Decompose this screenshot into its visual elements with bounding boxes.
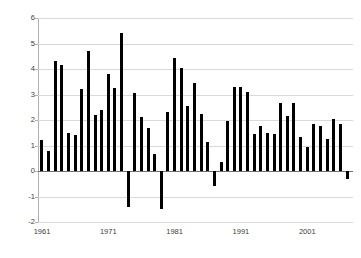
bar <box>259 126 262 171</box>
y-tick-label: 5 <box>13 40 35 48</box>
bar-chart: Percentage 6543210-1-2 19611971198119912… <box>0 0 361 258</box>
bar <box>67 133 70 171</box>
bar <box>47 151 50 171</box>
bar <box>213 171 216 186</box>
bar <box>332 119 335 171</box>
bar <box>133 93 136 171</box>
bar <box>186 106 189 171</box>
y-tick-label: 2 <box>13 116 35 124</box>
bar <box>166 112 169 171</box>
gridline <box>38 44 353 45</box>
bar <box>173 58 176 171</box>
x-tick-label: 1971 <box>88 227 128 236</box>
bar <box>147 128 150 171</box>
bar <box>206 142 209 171</box>
x-tick-label: 1991 <box>221 227 261 236</box>
zero-baseline <box>38 171 353 172</box>
bar <box>266 133 269 171</box>
bar <box>253 134 256 171</box>
bar <box>80 89 83 171</box>
bar <box>193 83 196 171</box>
bar <box>299 137 302 171</box>
bar <box>107 74 110 171</box>
gridline <box>38 222 353 223</box>
bar <box>87 51 90 171</box>
bar <box>312 124 315 171</box>
bar <box>279 103 282 171</box>
bar <box>286 116 289 171</box>
bar <box>60 65 63 171</box>
bar <box>233 87 236 171</box>
bar <box>339 124 342 171</box>
bar <box>153 154 156 171</box>
bar <box>239 87 242 171</box>
bar <box>40 140 43 171</box>
bar <box>226 121 229 171</box>
bar <box>200 114 203 171</box>
bar <box>120 33 123 171</box>
bar <box>54 61 57 171</box>
bar <box>160 171 163 209</box>
bar <box>292 103 295 171</box>
y-tick-label: 0 <box>13 167 35 175</box>
bar <box>246 92 249 171</box>
bar <box>100 110 103 171</box>
y-tick-label: 1 <box>13 142 35 150</box>
bar <box>113 88 116 171</box>
bar <box>326 139 329 171</box>
bar <box>306 147 309 171</box>
bar <box>319 126 322 171</box>
bar <box>127 171 130 207</box>
x-tick-label: 1961 <box>22 227 62 236</box>
gridline <box>38 69 353 70</box>
bar <box>94 115 97 171</box>
gridline <box>38 197 353 198</box>
gridline <box>38 18 353 19</box>
y-tick-label: -1 <box>13 193 35 201</box>
bar <box>180 68 183 171</box>
x-tick-label: 2001 <box>287 227 327 236</box>
y-tick-label: 3 <box>13 91 35 99</box>
bar <box>140 117 143 171</box>
bar <box>346 171 349 179</box>
bar <box>74 135 77 171</box>
y-tick-label: -2 <box>13 218 35 226</box>
plot-area <box>38 18 353 222</box>
bar <box>273 134 276 171</box>
x-tick-label: 1981 <box>155 227 195 236</box>
bar <box>220 162 223 171</box>
y-tick-label: 4 <box>13 65 35 73</box>
y-tick-label: 6 <box>13 14 35 22</box>
